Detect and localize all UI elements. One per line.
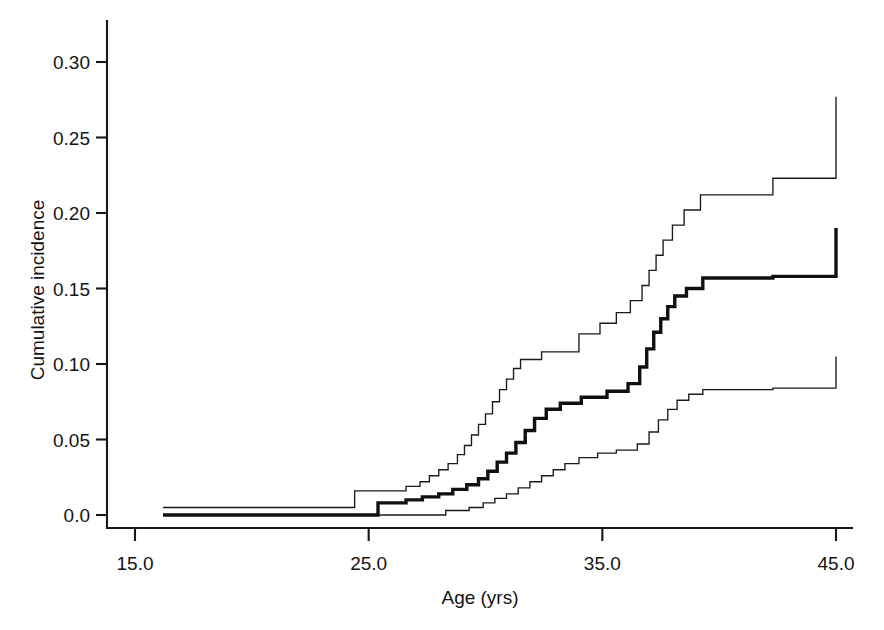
y-tick-label: 0.15 <box>53 279 90 300</box>
x-tick-label: 25.0 <box>350 553 387 574</box>
y-axis-tick-labels: 0.00.050.100.150.200.250.30 <box>53 52 90 526</box>
y-tick-label: 0.25 <box>53 128 90 149</box>
axis-spine <box>107 21 852 528</box>
y-tick-label: 0.20 <box>53 203 90 224</box>
y-tick-label: 0.30 <box>53 52 90 73</box>
y-axis-title: Cumulative incidence <box>27 200 48 381</box>
upper-confidence-curve <box>163 97 836 508</box>
cumulative-incidence-figure: 0.00.050.100.150.200.250.30 15.025.035.0… <box>0 0 884 630</box>
cumulative-incidence-plot: 0.00.050.100.150.200.250.30 15.025.035.0… <box>0 0 884 630</box>
cumulative-incidence-curve <box>163 228 836 515</box>
x-tick-label: 15.0 <box>117 553 154 574</box>
x-axis-title: Age (yrs) <box>441 587 518 608</box>
y-tick-label: 0.10 <box>53 354 90 375</box>
x-tick-label: 35.0 <box>584 553 621 574</box>
y-tick-label: 0.05 <box>53 430 90 451</box>
y-axis-ticks <box>96 62 107 515</box>
x-tick-label: 45.0 <box>818 553 855 574</box>
x-axis-tick-labels: 15.025.035.045.0 <box>117 553 855 574</box>
lower-confidence-curve <box>163 356 836 515</box>
x-axis-ticks <box>135 528 836 541</box>
y-tick-label: 0.0 <box>64 505 90 526</box>
